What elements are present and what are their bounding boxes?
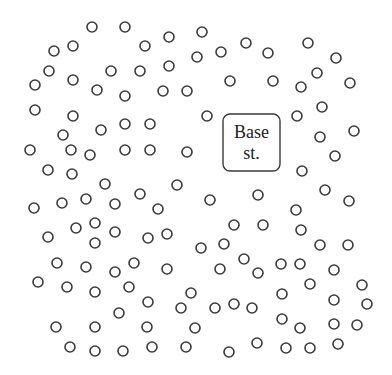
- sensor-node: [182, 147, 192, 157]
- sensor-node: [303, 38, 313, 48]
- sensor-node: [349, 126, 359, 136]
- sensor-node: [81, 262, 91, 272]
- sensor-node: [345, 78, 355, 88]
- sensor-node: [216, 47, 226, 57]
- sensor-node: [202, 111, 212, 121]
- sensor-node: [253, 268, 263, 278]
- sensor-node: [219, 239, 229, 249]
- sensor-node: [196, 243, 206, 253]
- sensor-node: [124, 282, 134, 292]
- sensor-node: [33, 277, 43, 287]
- sensor-node: [44, 66, 54, 76]
- sensor-node: [67, 169, 77, 179]
- sensor-node: [277, 314, 287, 324]
- sensor-node: [62, 282, 72, 292]
- sensor-node: [68, 111, 78, 121]
- sensor-node: [43, 232, 53, 242]
- sensor-node: [315, 240, 325, 250]
- sensor-node: [276, 259, 286, 269]
- sensor-node: [96, 125, 106, 135]
- sensor-node: [320, 185, 330, 195]
- sensor-node: [277, 289, 287, 299]
- sensor-node: [362, 299, 372, 309]
- sensor-node: [229, 220, 239, 230]
- sensor-node: [315, 132, 325, 142]
- sensor-node: [143, 297, 153, 307]
- sensor-node: [118, 346, 128, 356]
- sensor-node: [239, 254, 249, 264]
- sensor-node: [58, 130, 68, 140]
- sensor-node: [330, 151, 340, 161]
- sensor-node: [120, 145, 130, 155]
- sensor-node: [145, 119, 155, 129]
- sensor-node: [295, 323, 305, 333]
- sensor-node: [135, 66, 145, 76]
- sensor-node: [114, 308, 124, 318]
- sensor-node: [296, 82, 306, 92]
- sensor-node: [90, 346, 100, 356]
- sensor-node: [164, 32, 174, 42]
- sensor-node: [197, 27, 207, 37]
- sensor-node: [331, 53, 341, 63]
- sensor-node: [143, 233, 153, 243]
- base-station-label-line2: st.: [243, 143, 260, 164]
- sensor-node: [51, 322, 61, 332]
- sensor-node: [92, 85, 102, 95]
- sensor-node: [296, 225, 306, 235]
- sensor-network-diagram: [0, 0, 392, 375]
- sensor-node: [182, 86, 192, 96]
- sensor-node: [357, 280, 367, 290]
- sensor-node: [268, 76, 278, 86]
- sensor-node: [172, 180, 182, 190]
- sensor-node: [90, 287, 100, 297]
- sensor-node: [120, 119, 130, 129]
- sensor-node: [147, 342, 157, 352]
- sensor-node: [210, 303, 220, 313]
- sensor-node: [25, 145, 35, 155]
- sensor-node: [71, 223, 81, 233]
- sensor-node: [317, 102, 327, 112]
- sensor-node: [68, 75, 78, 85]
- sensor-node: [329, 265, 339, 275]
- sensor-node: [247, 303, 257, 313]
- sensor-node: [305, 279, 315, 289]
- sensor-node: [162, 229, 172, 239]
- sensor-node: [329, 295, 339, 305]
- sensor-node: [90, 322, 100, 332]
- sensor-node: [253, 190, 263, 200]
- sensor-node: [241, 38, 251, 48]
- sensor-node: [224, 347, 234, 357]
- sensor-node: [352, 320, 362, 330]
- sensor-node: [142, 322, 152, 332]
- sensor-node: [110, 227, 120, 237]
- sensor-node: [333, 339, 343, 349]
- sensor-node: [281, 343, 291, 353]
- sensor-node: [225, 76, 235, 86]
- sensor-node: [106, 66, 116, 76]
- sensor-node: [68, 41, 78, 51]
- sensor-node: [162, 264, 172, 274]
- sensor-node: [295, 259, 305, 269]
- sensor-node: [297, 166, 307, 176]
- sensor-node: [263, 48, 273, 58]
- sensor-node: [312, 68, 322, 78]
- sensor-node: [252, 338, 262, 348]
- sensor-node: [87, 22, 97, 32]
- sensor-node: [140, 41, 150, 51]
- sensor-node: [52, 258, 62, 268]
- sensor-node: [100, 179, 110, 189]
- base-station-label-line1: Base: [234, 122, 269, 143]
- sensor-node: [49, 46, 59, 56]
- sensor-node: [120, 22, 130, 32]
- sensor-node: [176, 303, 186, 313]
- sensor-node: [30, 105, 40, 115]
- sensor-node: [129, 258, 139, 268]
- sensor-node: [258, 220, 268, 230]
- sensor-node: [81, 194, 91, 204]
- sensor-node: [90, 238, 100, 248]
- sensor-node: [43, 165, 53, 175]
- sensor-node: [66, 145, 76, 155]
- sensor-node: [192, 52, 202, 62]
- sensor-node: [205, 195, 215, 205]
- sensor-node: [329, 319, 339, 329]
